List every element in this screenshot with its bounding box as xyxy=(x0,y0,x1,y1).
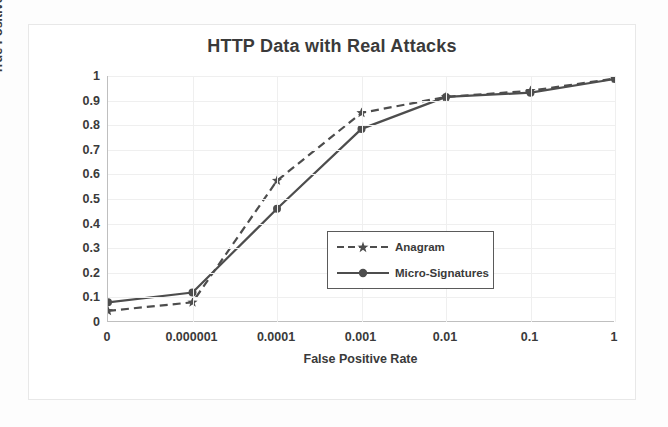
x-tick-label: 0.001 xyxy=(345,330,376,344)
y-tick-label: 0.4 xyxy=(66,217,100,231)
chart-legend[interactable]: Anagram Micro-Signatures xyxy=(327,231,494,289)
y-axis-title: True Positive Rate xyxy=(0,0,5,120)
x-tick-label: 0.000001 xyxy=(165,330,217,344)
gridline xyxy=(531,76,532,322)
x-tick-label: 0.01 xyxy=(433,330,457,344)
y-tick-label: 1 xyxy=(66,69,100,83)
x-tick-label: 0.1 xyxy=(521,330,538,344)
legend-label-micro-signatures: Micro-Signatures xyxy=(395,267,489,279)
legend-item-micro-signatures[interactable]: Micro-Signatures xyxy=(335,262,489,284)
y-tick-label: 0.3 xyxy=(66,241,100,255)
y-tick-label: 0.9 xyxy=(66,94,100,108)
gridline xyxy=(615,76,616,322)
y-tick-label: 0.1 xyxy=(66,290,100,304)
y-tick-label: 0.5 xyxy=(66,192,100,206)
chart-figure: HTTP Data with Real Attacks True Positiv… xyxy=(0,0,668,427)
x-tick-label: 0 xyxy=(104,330,111,344)
chart-title: HTTP Data with Real Attacks xyxy=(28,36,636,57)
x-tick-label: 1 xyxy=(611,330,618,344)
y-tick-label: 0.2 xyxy=(66,266,100,280)
data-point-micro-signatures xyxy=(108,298,112,306)
x-axis-tick-labels: 00.0000010.00010.0010.010.11 xyxy=(107,324,614,348)
y-tick-label: 0.7 xyxy=(66,143,100,157)
legend-swatch-solid-circle-icon xyxy=(335,266,391,280)
x-axis-title: False Positive Rate xyxy=(107,352,614,366)
y-axis-tick-labels: 10.90.80.70.60.50.40.30.20.10 xyxy=(62,76,100,322)
gridline xyxy=(193,76,194,322)
gridline xyxy=(277,76,278,322)
legend-label-anagram: Anagram xyxy=(395,241,445,253)
legend-swatch-dashed-star-icon xyxy=(335,240,391,254)
y-tick-label: 0 xyxy=(66,315,100,329)
legend-item-anagram[interactable]: Anagram xyxy=(335,236,445,258)
x-tick-label: 0.0001 xyxy=(257,330,295,344)
y-tick-label: 0.6 xyxy=(66,167,100,181)
y-tick-label: 0.8 xyxy=(66,118,100,132)
